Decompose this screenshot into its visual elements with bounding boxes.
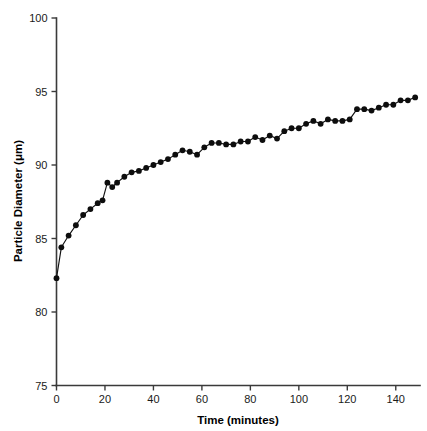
data-point-marker: [252, 134, 258, 140]
data-point-marker: [165, 156, 171, 162]
data-point-marker: [209, 140, 215, 146]
y-axis-title: Particle Diameter (μm): [12, 140, 24, 262]
data-point-marker: [238, 139, 244, 145]
data-point-marker: [129, 169, 135, 175]
data-point-marker: [369, 108, 375, 114]
data-point-marker: [172, 152, 178, 158]
x-axis-title: Time (minutes): [197, 414, 279, 426]
data-point-marker: [361, 106, 367, 112]
data-point-marker: [340, 118, 346, 124]
x-tick-label: 0: [53, 393, 59, 405]
chart-background: [0, 0, 427, 431]
data-point-marker: [136, 168, 142, 174]
data-point-marker: [73, 222, 79, 228]
x-tick-label: 40: [147, 393, 159, 405]
data-point-marker: [66, 233, 72, 239]
x-tick-label: 120: [338, 393, 356, 405]
data-point-marker: [318, 121, 324, 127]
data-point-marker: [289, 125, 295, 131]
data-point-marker: [354, 106, 360, 112]
x-tick-label: 20: [99, 393, 111, 405]
data-point-marker: [231, 142, 237, 148]
data-point-marker: [303, 121, 309, 127]
data-point-marker: [143, 165, 149, 171]
data-point-marker: [325, 117, 331, 123]
data-point-marker: [390, 102, 396, 108]
data-point-marker: [281, 128, 287, 134]
y-tick-label: 100: [29, 12, 47, 24]
data-point-marker: [180, 147, 186, 153]
data-point-marker: [114, 180, 120, 186]
x-tick-label: 60: [196, 393, 208, 405]
data-point-marker: [376, 105, 382, 111]
y-tick-label: 85: [35, 233, 47, 245]
x-tick-label: 140: [387, 393, 405, 405]
data-point-marker: [158, 159, 164, 165]
data-point-marker: [80, 212, 86, 218]
data-point-marker: [223, 142, 229, 148]
data-point-marker: [151, 162, 157, 168]
data-point-marker: [267, 133, 273, 139]
data-point-marker: [412, 94, 418, 100]
data-point-marker: [121, 174, 127, 180]
data-point-marker: [398, 97, 404, 103]
data-point-marker: [104, 180, 110, 186]
data-point-marker: [332, 118, 338, 124]
data-point-marker: [383, 102, 389, 108]
data-point-marker: [95, 200, 101, 206]
data-point-marker: [245, 139, 251, 145]
data-point-marker: [310, 118, 316, 124]
x-tick-label: 100: [290, 393, 308, 405]
data-point-marker: [216, 140, 222, 146]
data-point-marker: [88, 206, 94, 212]
data-point-marker: [109, 184, 115, 190]
data-point-marker: [274, 136, 280, 142]
chart-figure: 7580859095100 020406080100120140 Time (m…: [0, 0, 427, 431]
data-point-marker: [194, 152, 200, 158]
data-point-marker: [187, 149, 193, 155]
data-point-marker: [54, 275, 60, 281]
y-tick-label: 90: [35, 159, 47, 171]
y-tick-label: 75: [35, 380, 47, 392]
data-point-marker: [201, 144, 207, 150]
particle-diameter-line-chart: 7580859095100 020406080100120140 Time (m…: [0, 0, 427, 431]
data-point-marker: [100, 197, 106, 203]
x-tick-label: 80: [244, 393, 256, 405]
data-point-marker: [347, 117, 353, 123]
data-point-marker: [260, 137, 266, 143]
data-point-marker: [58, 244, 64, 250]
y-tick-label: 95: [35, 86, 47, 98]
data-point-marker: [296, 125, 302, 131]
y-tick-label: 80: [35, 306, 47, 318]
data-point-marker: [405, 97, 411, 103]
